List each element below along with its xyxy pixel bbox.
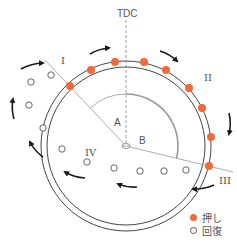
- zone-label-i: I: [61, 56, 65, 66]
- push-point: [111, 58, 119, 66]
- arrow-icon: [90, 48, 109, 54]
- push-point: [66, 82, 74, 90]
- legend: 押し 回復: [190, 211, 222, 237]
- arrow-icon: [229, 113, 230, 134]
- angle-label-a: A: [114, 118, 121, 128]
- recovery-point: [28, 79, 34, 85]
- arrow-icon: [193, 185, 214, 189]
- push-point: [207, 133, 215, 141]
- recovery-point: [48, 72, 54, 78]
- zone-label-ii: II: [204, 73, 212, 83]
- zone-label-iv: IV: [85, 148, 96, 158]
- recovery-point: [84, 159, 90, 165]
- recovery-point: [183, 167, 189, 173]
- recovery-point: [161, 168, 167, 174]
- arrow-icon: [160, 51, 177, 61]
- legend-label-recovery: 回復: [202, 223, 222, 238]
- open-dot-icon: [190, 227, 197, 234]
- arrow-icon: [65, 172, 85, 178]
- angle-arc-b: [126, 94, 178, 158]
- legend-item-recovery: 回復: [190, 224, 222, 237]
- zone-label-iii: III: [219, 176, 231, 186]
- arrow-icon: [118, 184, 137, 187]
- push-point: [205, 162, 213, 170]
- push-point: [185, 84, 193, 92]
- push-point: [198, 104, 206, 112]
- push-point: [162, 66, 170, 74]
- arrow-icon: [21, 63, 43, 69]
- recovery-point: [59, 146, 65, 152]
- angle-arc-a: [90, 94, 126, 108]
- push-point: [140, 58, 148, 66]
- tdc-label: TDC: [117, 9, 138, 19]
- direction-arrows: [12, 48, 230, 189]
- recovery-point: [26, 102, 32, 108]
- angle-label-b: B: [139, 136, 146, 146]
- arrow-icon: [12, 99, 14, 119]
- filled-dot-icon: [190, 214, 197, 221]
- recovery-point: [137, 168, 143, 174]
- pedal-stroke-diagram: TDC I II III IV A B 押し 回復: [0, 0, 237, 244]
- boundary-line-i: [45, 60, 126, 146]
- recovery-point: [40, 125, 46, 131]
- push-point: [87, 66, 95, 74]
- recovery-point: [111, 165, 117, 171]
